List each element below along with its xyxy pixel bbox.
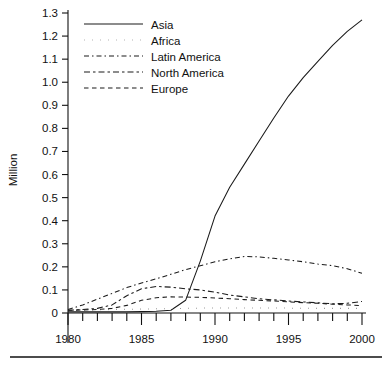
x-tick-label: 1990	[202, 333, 228, 345]
series-line-asia	[68, 20, 362, 312]
y-tick-label: 0.6	[42, 169, 58, 181]
data-series-group	[68, 20, 362, 312]
legend-label-latin-america: Latin America	[151, 51, 221, 63]
y-tick-label: 0.2	[42, 261, 58, 273]
x-tick-label: 2000	[349, 333, 375, 345]
y-tick-label: 1.0	[42, 76, 58, 88]
x-tick-label: 1980	[55, 333, 81, 345]
y-tick-label: 0.4	[42, 215, 59, 227]
y-tick-label: 1.2	[42, 30, 58, 42]
legend-label-asia: Asia	[151, 19, 174, 31]
y-tick-label: 0.5	[42, 192, 58, 204]
chart-legend: AsiaAfricaLatin AmericaNorth AmericaEuro…	[84, 19, 224, 95]
y-tick-label: 1.3	[42, 7, 58, 19]
series-line-europe	[68, 297, 362, 310]
y-tick-label: 1.1	[42, 53, 58, 65]
y-tick-label: 0.8	[42, 122, 58, 134]
y-tick-label: 0	[52, 307, 58, 319]
y-axis: 00.10.20.30.40.50.60.70.80.91.01.11.21.3	[42, 7, 68, 343]
y-tick-label: 0.1	[42, 284, 58, 296]
x-tick-label: 1995	[276, 333, 302, 345]
chart-canvas: Million 00.10.20.30.40.50.60.70.80.91.01…	[0, 0, 392, 369]
series-line-latin-america	[68, 256, 362, 309]
y-tick-label: 0.7	[42, 145, 58, 157]
x-tick-label: 1985	[129, 333, 155, 345]
y-tick-label: 0.3	[42, 238, 58, 250]
legend-label-europe: Europe	[151, 83, 188, 95]
y-axis-title: Million	[7, 154, 19, 187]
line-chart: Million 00.10.20.30.40.50.60.70.80.91.01…	[0, 0, 392, 369]
x-axis: 19801985199019952000	[55, 313, 375, 345]
y-tick-label: 0.9	[42, 99, 58, 111]
legend-label-north-america: North America	[151, 67, 224, 79]
legend-label-africa: Africa	[151, 35, 181, 47]
